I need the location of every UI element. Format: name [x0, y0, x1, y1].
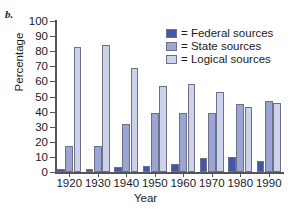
bar-1990-federal [257, 161, 265, 172]
bar-1930-federal [86, 169, 94, 172]
y-tick-mark [50, 36, 55, 37]
y-tick-label: 90 [35, 30, 48, 42]
y-tick-label: 80 [35, 45, 48, 57]
y-tick-mark [50, 51, 55, 52]
x-tick-label-1960: 1960 [170, 177, 196, 189]
y-tick-label: 30 [35, 121, 48, 133]
bar-1930-logical [102, 45, 110, 172]
bar-1980-federal [228, 157, 236, 172]
legend-label: = Logical sources [181, 53, 271, 66]
x-axis-ticks: 19201930194019501960197019801990 [55, 173, 284, 191]
x-tick-label-1970: 1970 [199, 177, 225, 189]
y-tick-label: 100 [29, 15, 48, 27]
legend-swatch-icon [166, 42, 177, 51]
legend-item-logical: = Logical sources [166, 53, 273, 66]
y-tick-label: 50 [35, 91, 48, 103]
bar-1990-logical [273, 103, 281, 172]
y-tick-label: 0 [42, 166, 48, 178]
figure-panel-b: b. Percentage 0102030405060708090100 192… [0, 0, 291, 217]
bar-1980-state [236, 104, 244, 172]
bar-1970-federal [200, 158, 208, 172]
y-axis-title: Percentage [13, 7, 25, 117]
bar-1950-federal [143, 166, 151, 172]
bar-1950-logical [159, 86, 167, 172]
legend-item-federal: = Federal sources [166, 27, 273, 40]
y-tick-label: 20 [35, 136, 48, 148]
bar-1930-state [94, 146, 102, 172]
x-tick-label-1930: 1930 [85, 177, 111, 189]
bar-1920-logical [74, 47, 82, 172]
y-tick-label: 10 [35, 151, 48, 163]
x-tick-label-1940: 1940 [113, 177, 139, 189]
bar-1920-federal [57, 169, 65, 172]
bar-1960-state [179, 113, 187, 172]
bar-1970-logical [216, 92, 224, 172]
bar-1920-state [65, 146, 73, 172]
bar-1950-state [151, 113, 159, 172]
x-tick-label-1950: 1950 [142, 177, 168, 189]
legend-label: = Federal sources [181, 27, 273, 40]
bar-1990-state [265, 101, 273, 172]
x-axis-title: Year [0, 192, 291, 204]
bar-1940-logical [131, 68, 139, 172]
x-tick-label-1920: 1920 [56, 177, 82, 189]
y-tick-mark [50, 97, 55, 98]
y-tick-mark [50, 142, 55, 143]
legend-label: = State sources [181, 40, 261, 53]
bar-1980-logical [245, 107, 253, 172]
x-tick-label-1990: 1990 [256, 177, 282, 189]
bar-1940-state [122, 124, 130, 172]
y-tick-mark [50, 157, 55, 158]
bar-1960-federal [171, 164, 179, 172]
y-tick-mark [50, 21, 55, 22]
panel-label: b. [5, 8, 13, 20]
legend-swatch-icon [166, 55, 177, 64]
bar-1940-federal [114, 167, 122, 172]
y-tick-mark [50, 112, 55, 113]
legend-swatch-icon [166, 29, 177, 38]
y-tick-mark [50, 81, 55, 82]
y-tick-mark [50, 127, 55, 128]
bar-1970-state [208, 113, 216, 172]
legend: = Federal sources= State sources= Logica… [166, 27, 273, 67]
y-tick-label: 60 [35, 75, 48, 87]
y-tick-label: 40 [35, 106, 48, 118]
y-tick-mark [50, 66, 55, 67]
y-tick-label: 70 [35, 60, 48, 72]
bar-1960-logical [188, 84, 196, 172]
x-tick-label-1980: 1980 [227, 177, 253, 189]
legend-item-state: = State sources [166, 40, 273, 53]
